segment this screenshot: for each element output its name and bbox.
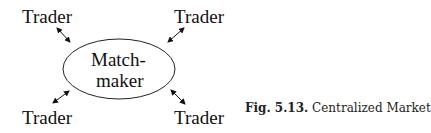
trader-top-left: Trader [22, 7, 72, 26]
trader-bottom-left: Trader [22, 108, 72, 127]
arrow-top-left [57, 28, 70, 42]
figure-caption: Fig. 5.13. Centralized Market [245, 101, 431, 115]
arrow-bottom-left [53, 91, 69, 103]
trader-top-right: Trader [174, 7, 224, 26]
matchmaker-line1: Match- [91, 50, 146, 69]
arrow-bottom-right [171, 90, 185, 104]
caption-label: Fig. 5.13. [245, 101, 308, 115]
caption-text: Centralized Market [312, 101, 431, 115]
trader-bottom-right: Trader [174, 108, 224, 127]
arrow-top-right [168, 28, 184, 42]
matchmaker-line2: maker [96, 71, 143, 90]
